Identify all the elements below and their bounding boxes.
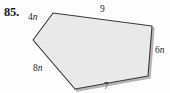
side-label-right: 6n (155, 46, 165, 56)
side-label-bottom: 7 (104, 82, 109, 92)
pentagon-figure (0, 0, 170, 93)
side-label-lower-left: 8n (33, 64, 43, 74)
side-label-top: 9 (100, 5, 105, 15)
side-label-bottom-number: 7 (104, 81, 109, 91)
side-label-upper-left: 4n (28, 13, 38, 23)
side-label-top-number: 9 (100, 4, 105, 14)
figure-page: 85. 9 6n 4n 8n 7 (0, 0, 170, 93)
pentagon-outline (33, 13, 152, 89)
side-label-right-variable: n (160, 45, 165, 55)
side-label-lower-left-variable: n (38, 63, 43, 73)
side-label-upper-left-variable: n (33, 12, 38, 22)
